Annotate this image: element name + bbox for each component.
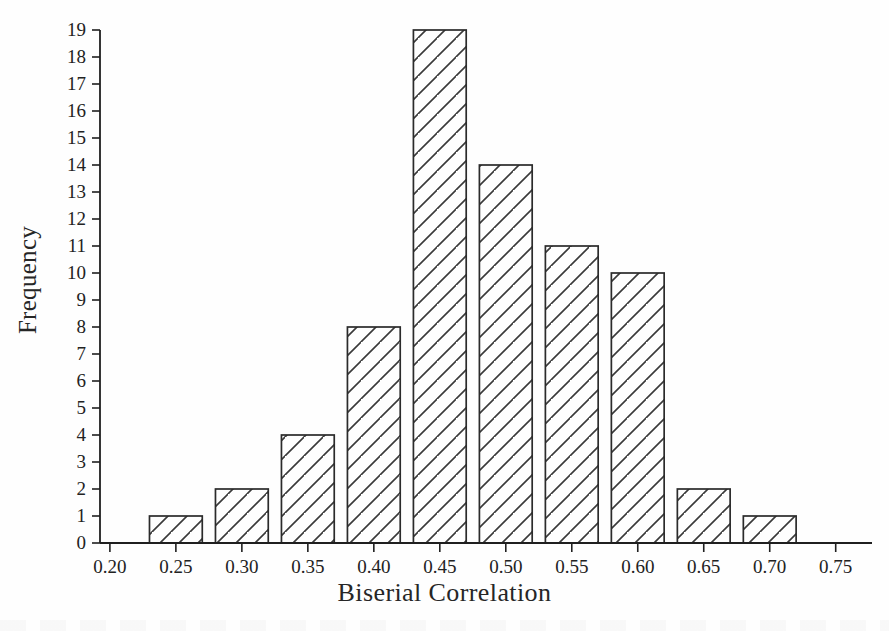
x-tick-label: 0.75 bbox=[819, 556, 852, 578]
y-tick-label: 15 bbox=[20, 127, 86, 149]
y-tick-label: 5 bbox=[20, 397, 86, 419]
histogram-bar bbox=[149, 516, 202, 543]
y-tick-label: 17 bbox=[20, 73, 86, 95]
y-tick-label: 4 bbox=[20, 424, 86, 446]
y-axis-title: Frequency bbox=[14, 190, 42, 370]
y-tick-label: 14 bbox=[20, 154, 86, 176]
x-tick-label: 0.35 bbox=[291, 556, 324, 578]
x-tick-label: 0.45 bbox=[423, 556, 456, 578]
y-tick-label: 18 bbox=[20, 46, 86, 68]
x-tick-label: 0.60 bbox=[621, 556, 654, 578]
y-tick-label: 6 bbox=[20, 370, 86, 392]
y-tick-label: 3 bbox=[20, 451, 86, 473]
histogram-bar bbox=[611, 273, 664, 543]
histogram-bar bbox=[743, 516, 796, 543]
cropped-caption-artifact bbox=[0, 620, 889, 631]
histogram-bar bbox=[677, 489, 730, 543]
histogram-figure: 012345678910111213141516171819 0.200.250… bbox=[0, 0, 889, 631]
x-tick-label: 0.65 bbox=[687, 556, 720, 578]
x-axis-title: Biserial Correlation bbox=[0, 578, 889, 608]
x-tick-label: 0.70 bbox=[753, 556, 786, 578]
y-tick-label: 0 bbox=[20, 532, 86, 554]
y-tick-label: 1 bbox=[20, 505, 86, 527]
x-tick-label: 0.55 bbox=[555, 556, 588, 578]
x-tick-label: 0.20 bbox=[93, 556, 126, 578]
plot-canvas bbox=[0, 0, 889, 631]
y-tick-label: 19 bbox=[20, 19, 86, 41]
x-tick-label: 0.50 bbox=[489, 556, 522, 578]
histogram-bar bbox=[479, 165, 532, 543]
y-tick-label: 2 bbox=[20, 478, 86, 500]
x-tick-label: 0.30 bbox=[225, 556, 258, 578]
x-tick-label: 0.25 bbox=[159, 556, 192, 578]
bar-series bbox=[149, 30, 796, 543]
histogram-bar bbox=[347, 327, 400, 543]
histogram-bar bbox=[281, 435, 334, 543]
histogram-bar bbox=[545, 246, 598, 543]
y-tick-label: 16 bbox=[20, 100, 86, 122]
histogram-bar bbox=[215, 489, 268, 543]
x-tick-label: 0.40 bbox=[357, 556, 390, 578]
histogram-bar bbox=[413, 30, 466, 543]
